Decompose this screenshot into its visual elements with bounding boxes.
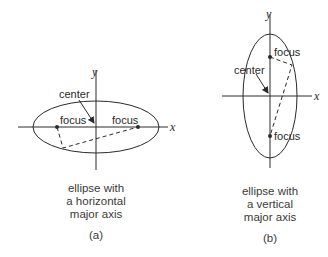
y-axis-label: y xyxy=(91,65,98,79)
caption-line: major axis xyxy=(210,211,328,224)
caption-line: ellipse with xyxy=(210,185,328,198)
focus-label-left: focus xyxy=(60,114,87,126)
focus-label-top: focus xyxy=(274,46,301,58)
caption-line: a horizontal xyxy=(36,195,156,208)
center-arrow xyxy=(256,74,268,93)
caption-line: ellipse with xyxy=(36,182,156,195)
part-label: (b) xyxy=(210,232,328,245)
diagram-horizontal-ellipse: x y center focus focus xyxy=(18,65,176,170)
caption-b: ellipse with a vertical major axis (b) xyxy=(210,185,328,245)
caption-line: major axis xyxy=(36,208,156,221)
x-axis-label: x xyxy=(313,89,320,103)
center-label: center xyxy=(59,88,90,100)
caption-line: a vertical xyxy=(210,198,328,211)
focus-label-right: focus xyxy=(112,114,139,126)
focal-distance-dashed-lines xyxy=(57,127,138,148)
focus-point-bottom xyxy=(268,134,272,138)
y-axis-label: y xyxy=(265,7,272,21)
caption-a: ellipse with a horizontal major axis (a) xyxy=(36,182,156,242)
part-label: (a) xyxy=(36,229,156,242)
focus-label-bottom: focus xyxy=(274,130,301,142)
x-axis-label: x xyxy=(169,120,176,134)
diagram-vertical-ellipse: x y center focus focus xyxy=(222,7,320,168)
center-label: center xyxy=(234,64,265,76)
